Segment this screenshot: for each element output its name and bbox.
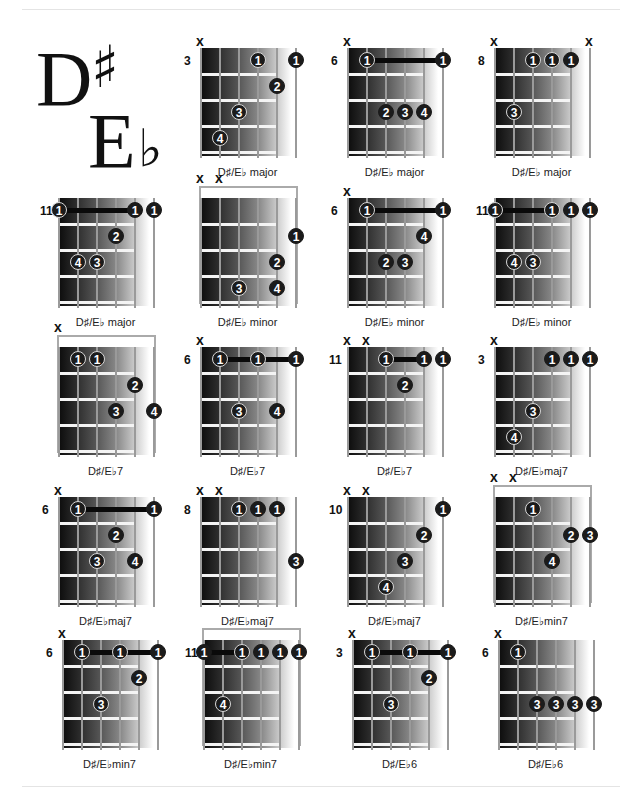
chord-label: D♯/E♭min7 bbox=[52, 758, 167, 771]
fret-position-number: 11 bbox=[329, 353, 342, 367]
finger-dot: 4 bbox=[127, 553, 143, 569]
string-line bbox=[62, 640, 64, 750]
string-line bbox=[347, 347, 349, 457]
string-line bbox=[385, 198, 387, 308]
string-line bbox=[219, 497, 221, 607]
string-line bbox=[257, 198, 259, 308]
finger-dot: 1 bbox=[544, 351, 560, 367]
finger-dot: 1 bbox=[435, 351, 451, 367]
string-line bbox=[295, 198, 297, 308]
finger-dot: 3 bbox=[93, 696, 109, 712]
finger-dot: 1 bbox=[253, 644, 269, 660]
string-line bbox=[352, 640, 354, 750]
finger-dot: 2 bbox=[416, 527, 432, 543]
string-line bbox=[115, 347, 117, 457]
chord-diagram: 6x13333D♯/E♭6 bbox=[498, 640, 632, 785]
chord-diagram: 6x11423D♯/E♭ minor bbox=[347, 198, 487, 343]
string-line bbox=[423, 198, 425, 308]
fret-position-number: 6 bbox=[184, 353, 191, 367]
string-line bbox=[77, 198, 79, 308]
string-line bbox=[347, 48, 349, 158]
string-line bbox=[153, 347, 155, 457]
string-line bbox=[423, 497, 425, 607]
finger-dot: 2 bbox=[108, 527, 124, 543]
finger-dot: 1 bbox=[291, 644, 307, 660]
finger-dot: 1 bbox=[416, 351, 432, 367]
chord-diagram: 11111114D♯/E♭min7 bbox=[203, 640, 343, 785]
fret-position-number: 6 bbox=[482, 646, 489, 660]
muted-string-icon: x bbox=[490, 333, 498, 347]
finger-dot: 4 bbox=[506, 254, 522, 270]
finger-dot: 1 bbox=[440, 644, 456, 660]
fret-position-number: 6 bbox=[331, 204, 338, 218]
chord-diagram: 6x11134D♯/E♭7 bbox=[200, 347, 340, 492]
string-line bbox=[276, 48, 278, 158]
string-line bbox=[238, 347, 240, 457]
string-line bbox=[574, 640, 576, 750]
finger-dot: 1 bbox=[435, 52, 451, 68]
finger-dot: 3 bbox=[383, 696, 399, 712]
muted-string-icon: x bbox=[196, 483, 204, 497]
finger-dot: 2 bbox=[269, 78, 285, 94]
finger-dot: 3 bbox=[397, 553, 413, 569]
finger-dot: 1 bbox=[288, 228, 304, 244]
finger-dot: 4 bbox=[506, 429, 522, 445]
finger-dot: 3 bbox=[231, 280, 247, 296]
finger-dot: 3 bbox=[582, 527, 598, 543]
finger-dot: 1 bbox=[127, 202, 143, 218]
string-line bbox=[404, 347, 406, 457]
muted-string-icon: x bbox=[509, 470, 517, 484]
string-line bbox=[238, 48, 240, 158]
string-line bbox=[570, 497, 572, 607]
finger-dot: 1 bbox=[70, 351, 86, 367]
finger-dot: 3 bbox=[108, 403, 124, 419]
string-line bbox=[404, 198, 406, 308]
string-line bbox=[134, 347, 136, 457]
chord-diagram: 8xx1113D♯/E♭maj7 bbox=[200, 497, 340, 642]
fret-position-number: 8 bbox=[478, 54, 485, 68]
string-line bbox=[96, 198, 98, 308]
finger-dot: 1 bbox=[212, 351, 228, 367]
chord-label: D♯/E♭ minor bbox=[484, 316, 599, 329]
finger-dot: 1 bbox=[51, 202, 67, 218]
string-line bbox=[551, 497, 553, 607]
finger-dot: 1 bbox=[250, 501, 266, 517]
string-line bbox=[513, 497, 515, 607]
string-line bbox=[532, 198, 534, 308]
finger-dot: 1 bbox=[196, 644, 212, 660]
finger-dot: 1 bbox=[359, 202, 375, 218]
string-line bbox=[494, 48, 496, 158]
fret-position-number: 8 bbox=[184, 503, 191, 517]
finger-dot: 2 bbox=[421, 670, 437, 686]
chord-label: D♯/E♭6 bbox=[488, 758, 603, 771]
string-line bbox=[100, 640, 102, 750]
chord-label: D♯/E♭ major bbox=[484, 166, 599, 179]
string-line bbox=[532, 347, 534, 457]
muted-string-icon: x bbox=[343, 34, 351, 48]
chord-diagram: x11234D♯/E♭7 bbox=[58, 347, 198, 492]
muted-string-icon: x bbox=[343, 483, 351, 497]
string-line bbox=[347, 198, 349, 308]
finger-dot: 3 bbox=[586, 696, 602, 712]
title-alt-note: E bbox=[88, 102, 136, 180]
finger-dot: 3 bbox=[288, 553, 304, 569]
finger-dot: 3 bbox=[397, 254, 413, 270]
finger-dot: 3 bbox=[506, 104, 522, 120]
finger-dot: 4 bbox=[378, 579, 394, 595]
finger-dot: 1 bbox=[288, 52, 304, 68]
finger-dot: 4 bbox=[544, 553, 560, 569]
finger-dot: 4 bbox=[70, 254, 86, 270]
finger-dot: 3 bbox=[89, 553, 105, 569]
finger-dot: 1 bbox=[272, 644, 288, 660]
bottom-rule bbox=[22, 786, 620, 787]
finger-dot: 3 bbox=[525, 254, 541, 270]
fret-position-number: 3 bbox=[184, 54, 191, 68]
string-line bbox=[200, 48, 202, 158]
chord-diagram: xx1234D♯/E♭ minor bbox=[200, 198, 340, 343]
chord-label: D♯/E♭ minor bbox=[190, 316, 305, 329]
finger-dot: 1 bbox=[231, 501, 247, 517]
chord-diagram: 11111143D♯/E♭ minor bbox=[494, 198, 632, 343]
flat-symbol: ♭ bbox=[138, 122, 163, 174]
chord-diagram: 6x11234D♯/E♭ major bbox=[347, 48, 487, 193]
finger-dot: 1 bbox=[487, 202, 503, 218]
